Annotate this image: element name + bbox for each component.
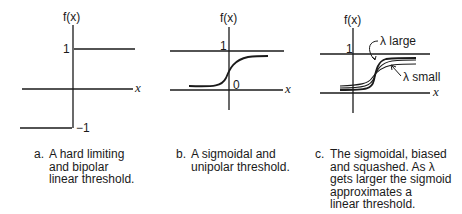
panel-b-tick-1: 1 xyxy=(220,40,227,52)
panel-b-caption-letter: b. xyxy=(176,148,186,161)
panel-c-lambda-small-label: λ small xyxy=(403,71,440,83)
panel-a-y-label: f(x) xyxy=(63,11,80,23)
panel-a-x-label: x xyxy=(135,82,141,94)
panel-c-lambda-large-label: λ large xyxy=(380,35,416,47)
panel-c-y-label: f(x) xyxy=(344,14,361,26)
panel-a-caption-text: A hard limiting and bipolar linear thres… xyxy=(49,148,134,186)
panel-c-arrow-large xyxy=(369,41,378,59)
panel-c-arrow-small xyxy=(392,66,401,76)
panel-c-caption-text: The sigmoidal, biased and squashed. As λ… xyxy=(330,148,451,211)
panel-b-x-label: x xyxy=(285,83,291,95)
panel-b-plot xyxy=(170,27,284,110)
panel-a-plot xyxy=(20,25,135,128)
panel-a-caption-letter: a. xyxy=(34,148,44,161)
panel-c-caption-letter: c. xyxy=(315,148,324,161)
panel-b-caption-text: A sigmoidal and unipolar threshold. xyxy=(191,148,290,173)
panel-b-y-label: f(x) xyxy=(220,12,237,24)
panel-a-tick-1: 1 xyxy=(63,43,70,55)
panel-a-tick-neg1: −1 xyxy=(76,122,90,134)
panel-b-tick-0: 0 xyxy=(233,79,240,91)
panel-c-x-label: x xyxy=(433,86,439,98)
panel-c-tick-1: 1 xyxy=(346,43,353,55)
